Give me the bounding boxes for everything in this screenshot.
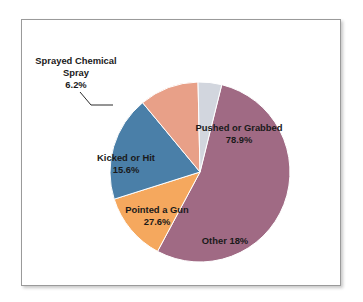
slice-label-pushed-or-grabbed-value: 78.9%	[226, 134, 253, 145]
pie-chart-figure: Pushed or Grabbed78.9%Other 18%Pointed a…	[0, 0, 363, 302]
slice-label-kicked-or-hit-value: 15.6%	[113, 164, 140, 175]
slice-label-sprayed-chemical-spray-name: Spray	[63, 67, 90, 78]
sprayed-chemical-spray-leader-line	[80, 92, 113, 105]
slice-label-kicked-or-hit-name: Kicked or Hit	[97, 152, 155, 163]
slice-label-pushed-or-grabbed-name: Pushed or Grabbed	[196, 122, 283, 133]
slice-label-pointed-a-gun-value: 27.6%	[144, 216, 171, 227]
slice-label-sprayed-chemical-spray-value: 6.2%	[65, 79, 87, 90]
pie-chart-svg: Pushed or Grabbed78.9%Other 18%Pointed a…	[0, 0, 363, 302]
slice-label-sprayed-chemical-spray-name: Sprayed Chemical	[35, 55, 116, 66]
slice-label-pointed-a-gun-name: Pointed a Gun	[125, 204, 189, 215]
slice-label-other: Other 18%	[202, 235, 249, 246]
